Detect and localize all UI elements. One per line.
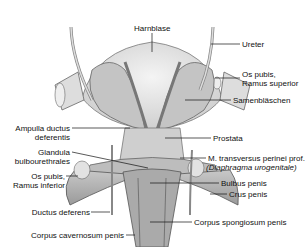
label-ampulla-line2: deferentis — [35, 133, 70, 142]
label-m-transversus: M. transversus perinei prof. — [208, 154, 305, 163]
label-harnblase: Harnblase — [134, 24, 170, 33]
label-os-pubis-superior-line1: Os pubis, — [242, 70, 276, 79]
label-corpus-cavernosum: Corpus cavernosum penis — [31, 231, 124, 240]
label-ductus-deferens: Ductus deferens — [32, 208, 90, 217]
label-os-pubis-inferior-line1: Os pubis, — [31, 172, 65, 181]
anatomy-figure: Harnblase Ureter Os pubis, Ramus superio… — [0, 0, 308, 247]
label-ureter: Ureter — [242, 40, 264, 49]
label-os-pubis-superior-line2: Ramus superior — [242, 79, 298, 88]
label-diaphragma: (Diaphragma urogenitale) — [206, 163, 297, 172]
label-prostata: Prostata — [213, 134, 243, 143]
label-bulbus-penis: Bulbus penis — [221, 179, 267, 188]
label-samenblaeschen: Samenbläschen — [233, 96, 290, 105]
label-ampulla-line1: Ampulla ductus — [15, 124, 70, 133]
label-crus-penis: Crus penis — [229, 190, 267, 199]
label-corpus-spongiosum: Corpus spongiosum penis — [194, 218, 287, 227]
label-os-pubis-inferior-line2: Ramus inferior — [13, 181, 65, 190]
label-glandula-line2: bulbourethrales — [15, 157, 70, 166]
label-glandula-line1: Glandula — [38, 148, 70, 157]
